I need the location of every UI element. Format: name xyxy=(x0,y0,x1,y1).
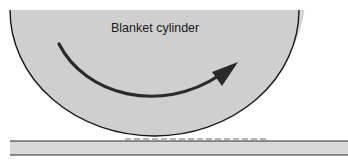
blanket-cylinder-label: Blanket cylinder xyxy=(111,21,199,35)
substrate xyxy=(10,141,348,155)
blanket-cylinder-diagram: Blanket cylinder xyxy=(0,0,348,162)
